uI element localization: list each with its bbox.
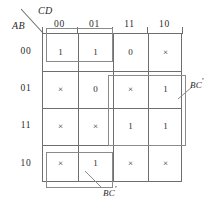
cell-value: × — [163, 48, 168, 57]
row-header-2: 11 — [14, 120, 38, 130]
group-box-top-left[interactable] — [46, 28, 113, 62]
column-header-2: 11 — [112, 19, 147, 29]
column-variable-label: CD — [38, 5, 53, 16]
group-label-right-text: BC — [190, 80, 202, 90]
kmap-cell-r2c0[interactable]: × — [43, 108, 78, 145]
column-tick-4 — [182, 27, 183, 34]
cell-value: × — [93, 122, 98, 131]
cell-value: × — [128, 159, 133, 168]
kmap-cell-r1c0[interactable]: × — [43, 71, 78, 108]
kmap-cell-r3c3[interactable]: × — [148, 145, 183, 182]
cell-value: 0 — [128, 48, 133, 57]
karnaugh-map: CD AB 00 01 11 10 00 01 11 10 1 1 0 × × … — [0, 0, 215, 217]
kmap-cell-r3c2[interactable]: × — [113, 145, 148, 182]
row-header-0: 00 — [14, 46, 38, 56]
group-label-right: BC′ — [190, 80, 204, 90]
group-label-bottom: BC′ — [103, 188, 117, 198]
leader-line-bottom-group — [84, 170, 104, 190]
row-variable-label: AB — [12, 20, 25, 31]
group-label-bottom-prime: ′ — [115, 184, 117, 194]
row-header-3: 10 — [14, 158, 38, 168]
row-header-1: 01 — [14, 83, 38, 93]
cell-value: × — [58, 85, 63, 94]
kmap-cell-r0c2[interactable]: 0 — [113, 34, 148, 71]
cell-value: × — [58, 122, 63, 131]
cell-value: 0 — [93, 85, 98, 94]
cell-value: × — [163, 159, 168, 168]
column-header-3: 10 — [147, 19, 182, 29]
group-label-bottom-text: BC — [103, 188, 115, 198]
group-box-right[interactable] — [108, 75, 186, 146]
kmap-cell-r0c3[interactable]: × — [148, 34, 183, 71]
group-label-right-prime: ′ — [202, 76, 204, 86]
